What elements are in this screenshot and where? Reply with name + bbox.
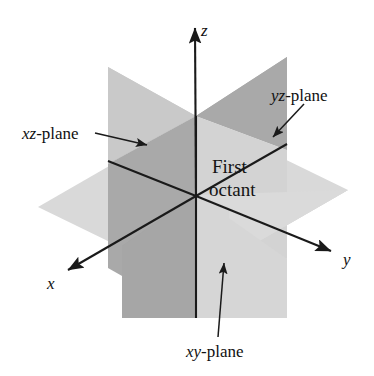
xy-plane-label-suffix: -plane bbox=[201, 342, 243, 361]
yz-plane-label-suffix: -plane bbox=[285, 86, 327, 105]
y-axis-label: y bbox=[341, 250, 351, 269]
first-octant-label-line1: First bbox=[212, 156, 248, 177]
xz-plane-label: xz-plane bbox=[21, 124, 79, 143]
xz-plane-label-prefix: xz bbox=[21, 124, 37, 143]
coordinate-planes-figure: z y x xz-plane yz-plane xy-plane First o… bbox=[0, 0, 374, 376]
xy-plane-label-prefix: xy bbox=[185, 342, 202, 361]
x-axis-label: x bbox=[46, 274, 55, 293]
xz-plane-label-suffix: -plane bbox=[36, 124, 78, 143]
diagram-canvas: z y x xz-plane yz-plane xy-plane First o… bbox=[0, 0, 374, 376]
yz-plane-label-prefix: yz bbox=[269, 86, 286, 105]
yz-plane-label: yz-plane bbox=[269, 86, 328, 105]
first-octant-label-line2: octant bbox=[209, 179, 256, 200]
z-axis-label: z bbox=[200, 21, 208, 40]
xy-plane-label: xy-plane bbox=[185, 342, 244, 361]
z-axis-positive bbox=[195, 28, 196, 196]
